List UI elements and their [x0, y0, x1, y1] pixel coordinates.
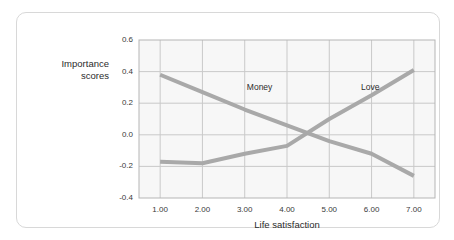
y-axis-tick-5: -0.4 — [107, 194, 133, 202]
series-label-money: Money — [247, 82, 273, 92]
y-axis-title-line-2: scores — [47, 70, 109, 82]
y-axis-title-line-1: Importance — [47, 58, 109, 70]
x-axis-tick-5: 6.00 — [352, 206, 392, 214]
y-axis-tick-2: 0.2 — [107, 99, 133, 107]
x-axis-tick-0: 1.00 — [140, 206, 180, 214]
y-axis-tick-1: 0.4 — [107, 68, 133, 76]
x-axis-tick-6: 7.00 — [394, 206, 434, 214]
x-axis-tick-2: 3.00 — [225, 206, 265, 214]
x-axis-title: Life satisfaction — [139, 219, 435, 230]
y-axis-title: Importance scores — [47, 58, 109, 82]
x-axis-tick-4: 5.00 — [309, 206, 349, 214]
y-axis-tick-4: -0.2 — [107, 162, 133, 170]
x-axis-tick-3: 4.00 — [267, 206, 307, 214]
series-label-love: Love — [361, 82, 379, 92]
chart-card: Importance scores Life satisfaction 0.60… — [16, 12, 440, 228]
y-axis-tick-0: 0.6 — [107, 36, 133, 44]
y-axis-tick-3: 0.0 — [107, 131, 133, 139]
x-axis-tick-1: 2.00 — [182, 206, 222, 214]
